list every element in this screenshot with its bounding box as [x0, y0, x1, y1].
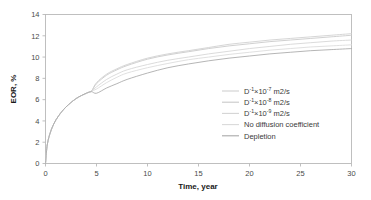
- x-axis-tick-label: 0: [43, 169, 47, 178]
- x-axis-tick-label: 20: [245, 169, 253, 178]
- x-axis-title: Time, year: [178, 182, 217, 191]
- x-axis-tick-label: 30: [347, 169, 355, 178]
- eor-vs-time-line-chart: 02468101214 051015202530 D-1×10-7 m2/sD-…: [0, 0, 371, 200]
- legend-label-4[interactable]: Depletion: [244, 132, 276, 141]
- y-axis-tick-label: 14: [31, 10, 39, 19]
- y-axis-tick-label: 12: [31, 32, 39, 41]
- y-axis-title: EOR, %: [9, 75, 18, 104]
- x-axis-tick-label: 5: [94, 169, 98, 178]
- x-axis-tick-label: 15: [194, 169, 202, 178]
- chart-background: [0, 0, 371, 200]
- y-axis-tick-label: 6: [35, 95, 39, 104]
- x-axis-tick-label: 10: [143, 169, 151, 178]
- legend-label-3[interactable]: No diffusion coefficient: [244, 120, 320, 129]
- chart-figure: 02468101214 051015202530 D-1×10-7 m2/sD-…: [0, 0, 371, 200]
- y-axis-tick-label: 0: [35, 159, 39, 168]
- y-axis-tick-label: 10: [31, 53, 39, 62]
- y-axis-tick-label: 4: [35, 117, 39, 126]
- y-axis-tick-label: 8: [35, 74, 39, 83]
- y-axis-tick-label: 2: [35, 138, 39, 147]
- x-axis-tick-label: 25: [296, 169, 304, 178]
